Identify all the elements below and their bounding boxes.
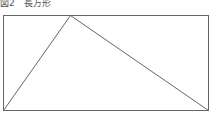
triangle-shape [4,16,209,111]
rectangle-shape [4,16,209,111]
rectangle-triangle-diagram [0,0,211,119]
